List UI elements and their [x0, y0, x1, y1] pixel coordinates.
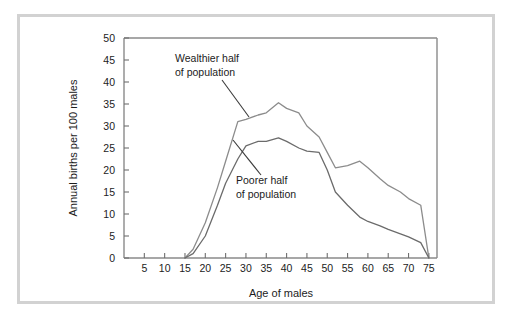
ticks-group	[124, 38, 429, 258]
y-tick-label: 45	[103, 54, 115, 66]
x-tick-label: 55	[342, 262, 354, 274]
series-line-poorer	[185, 138, 429, 258]
series-group	[185, 103, 429, 258]
series-line-wealthier	[185, 103, 429, 258]
annotation-leader-wealthier	[222, 80, 249, 117]
x-tick-label: 40	[281, 262, 293, 274]
x-axis-title: Age of males	[249, 287, 314, 299]
y-tick-label: 10	[103, 208, 115, 220]
y-tick-label: 40	[103, 76, 115, 88]
x-tick-label: 45	[301, 262, 313, 274]
y-tick-label: 30	[103, 120, 115, 132]
y-tick-label: 15	[103, 186, 115, 198]
annotation-label-poorer-line2: of population	[236, 188, 296, 200]
line-chart: 0510152025303540455051015202530354045505…	[0, 0, 515, 322]
annotation-label-poorer-line1: Poorer half	[236, 174, 287, 186]
x-tick-label: 65	[382, 262, 394, 274]
x-tick-label: 5	[141, 262, 147, 274]
x-tick-label: 10	[159, 262, 171, 274]
y-tick-label: 50	[103, 32, 115, 44]
x-tick-label: 35	[260, 262, 272, 274]
annotation-label-wealthier-line2: of population	[175, 66, 235, 78]
y-tick-label: 0	[109, 252, 115, 264]
x-tick-label: 75	[423, 262, 435, 274]
y-tick-label: 20	[103, 164, 115, 176]
annotations-group: Wealthier halfof populationPoorer halfof…	[175, 52, 296, 200]
x-tick-label: 30	[240, 262, 252, 274]
x-tick-label: 70	[403, 262, 415, 274]
y-tick-label: 35	[103, 98, 115, 110]
tick-labels-group: 0510152025303540455051015202530354045505…	[103, 32, 435, 274]
x-tick-label: 50	[321, 262, 333, 274]
axes-group	[124, 38, 437, 258]
x-tick-label: 20	[199, 262, 211, 274]
x-tick-label: 15	[179, 262, 191, 274]
annotation-label-wealthier-line1: Wealthier half	[175, 52, 239, 64]
figure-container: 0510152025303540455051015202530354045505…	[0, 0, 515, 322]
y-tick-label: 25	[103, 142, 115, 154]
x-tick-label: 25	[220, 262, 232, 274]
plot-wrapper: 0510152025303540455051015202530354045505…	[0, 0, 515, 322]
y-tick-label: 5	[109, 230, 115, 242]
y-axis-title: Annual births per 100 males	[67, 79, 79, 216]
x-tick-label: 60	[362, 262, 374, 274]
